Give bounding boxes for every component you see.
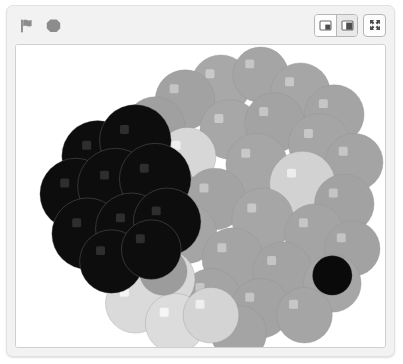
stamp-highlight — [337, 233, 346, 242]
stamp-body — [277, 287, 333, 343]
stamp-highlight — [116, 213, 125, 222]
stamp-highlight — [245, 59, 254, 68]
small-stage-icon — [319, 19, 332, 32]
green-flag-icon — [18, 16, 37, 35]
stop-button[interactable] — [44, 16, 63, 35]
stamp-highlight — [339, 147, 348, 156]
stop-octagon-icon — [44, 16, 63, 35]
stamp-highlight — [319, 99, 328, 108]
stamp-highlight — [100, 171, 109, 180]
stamp-highlight — [152, 206, 161, 215]
stamp-highlight — [205, 69, 214, 78]
stamp-highlight — [196, 300, 205, 309]
stamp-highlight — [245, 293, 254, 302]
stamp-highlight — [287, 169, 296, 178]
stamp-highlight — [96, 246, 105, 255]
stamp-highlight — [267, 256, 276, 265]
stage-canvas[interactable] — [16, 45, 385, 347]
stamp-highlight — [285, 77, 294, 86]
small-stage-button[interactable] — [315, 15, 336, 36]
stamp-highlight — [200, 184, 209, 193]
stage-panel — [6, 5, 395, 357]
stamp-highlight — [160, 308, 169, 317]
stamp-highlight — [304, 129, 313, 138]
stamp-circle — [277, 287, 333, 343]
stamp-highlight — [72, 218, 81, 227]
stage-controls-left — [18, 16, 63, 35]
stamp-highlight — [299, 218, 308, 227]
stamp-highlight — [82, 141, 91, 150]
stamp-circle — [121, 220, 181, 280]
stamp-highlight — [120, 125, 129, 134]
stamp-circle — [183, 287, 239, 343]
large-stage-button[interactable] — [336, 15, 357, 36]
stamp-highlight — [136, 234, 145, 243]
stamp-highlight — [170, 84, 179, 93]
stamp-highlight — [60, 179, 69, 188]
fullscreen-button[interactable] — [363, 14, 386, 37]
fullscreen-arrows-icon — [368, 18, 382, 32]
stage-size-group — [314, 14, 358, 37]
stamp-highlight — [217, 243, 226, 252]
stamp-highlight — [329, 189, 338, 198]
large-stage-icon — [341, 19, 354, 32]
stamp-highlight — [247, 203, 256, 212]
stamp-highlight — [241, 149, 250, 158]
stage-header — [7, 6, 394, 44]
stamp-highlight — [289, 300, 298, 309]
stamp-highlight — [214, 114, 223, 123]
stamp-body — [183, 287, 239, 343]
scratch-stage-screen — [0, 0, 403, 364]
stage-controls-right — [314, 14, 386, 37]
stamp-body — [312, 256, 352, 296]
green-flag-button[interactable] — [18, 16, 37, 35]
stamp-circle — [312, 256, 352, 296]
stamp-highlight — [259, 107, 268, 116]
stage-canvas-wrap[interactable] — [15, 44, 386, 348]
stamp-highlight — [140, 164, 149, 173]
stamp-body — [121, 220, 181, 280]
